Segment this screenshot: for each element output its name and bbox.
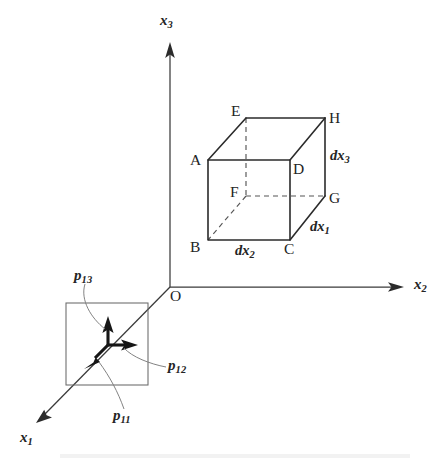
axis-label-x1: x1 [20, 430, 33, 448]
cube-vertex-E: E [231, 103, 240, 119]
stress-label-p11: p11 [113, 408, 131, 426]
axis-origin-label: O [170, 288, 181, 304]
cube-vertex-F: F [230, 184, 239, 200]
cube-vertex-G: G [329, 190, 340, 206]
stress-arrow-p11 [84, 345, 108, 369]
cube-hidden-edges [208, 118, 325, 240]
axis-x1 [36, 287, 170, 423]
axis-x3 [165, 42, 175, 287]
stress-arrow-p12 [108, 339, 138, 350]
scan-artifact [60, 454, 410, 458]
axis-label-x3: x3 [160, 13, 173, 31]
leader-p13 [84, 284, 105, 329]
leader-p12 [124, 348, 166, 367]
figure-canvas: x3 x2 x1 O A B C D E F G H dx1 dx2 dx3 p… [0, 0, 446, 462]
cube-visible-edges [208, 118, 325, 240]
cube-dimension-dx1: dx1 [310, 219, 330, 237]
axis-label-x2: x2 [414, 277, 427, 295]
stress-label-p13: p13 [74, 268, 92, 286]
stress-arrow-p13 [102, 316, 113, 345]
cube-vertex-C: C [284, 241, 294, 257]
cube-vertex-D: D [293, 161, 304, 177]
cube-dimension-dx3: dx3 [330, 148, 350, 166]
stress-label-p12: p12 [168, 358, 186, 376]
axis-x2 [170, 282, 404, 292]
cube-vertex-A: A [190, 152, 201, 168]
diagram-vector-layer [0, 0, 446, 462]
cube-vertex-B: B [190, 239, 200, 255]
cube-dimension-dx2: dx2 [235, 243, 255, 261]
cube-vertex-H: H [329, 110, 340, 126]
